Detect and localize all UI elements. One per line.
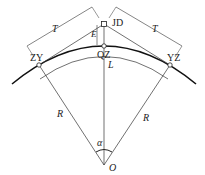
radius-left — [39, 65, 104, 165]
point-ZY — [37, 63, 41, 67]
label-R-right: R — [143, 113, 149, 123]
point-JD — [102, 22, 107, 27]
dim-T-left — [27, 7, 92, 46]
radius-right — [104, 65, 170, 165]
curve-diagram: T T JD E QZ ZY YZ L R R α O — [0, 0, 205, 175]
label-JD: JD — [112, 18, 123, 28]
point-YZ — [168, 63, 172, 67]
label-L: L — [108, 60, 114, 70]
label-ZY: ZY — [30, 53, 43, 63]
label-R-left: R — [57, 109, 63, 119]
dim-T-right — [116, 7, 182, 46]
diagram-graphic — [0, 0, 205, 175]
label-E: E — [91, 30, 97, 39]
label-T-left: T — [52, 24, 58, 34]
point-QZ — [102, 44, 106, 48]
label-T-right: T — [152, 24, 158, 34]
label-YZ: YZ — [167, 53, 180, 63]
label-O: O — [109, 163, 116, 173]
label-alpha: α — [97, 138, 102, 148]
